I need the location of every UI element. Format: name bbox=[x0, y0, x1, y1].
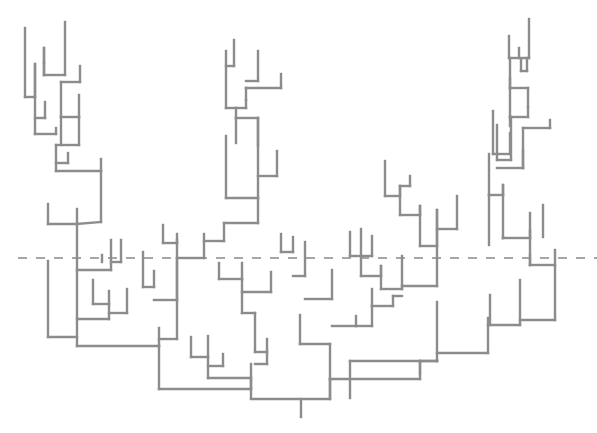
dendrogram-branches bbox=[25, 19, 555, 399]
branch-segment bbox=[77, 222, 101, 224]
dendrogram bbox=[0, 0, 597, 433]
